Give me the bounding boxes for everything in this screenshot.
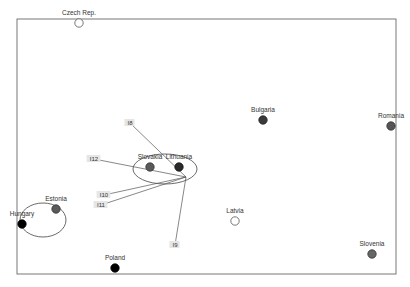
vector-i9: I9 bbox=[169, 177, 186, 248]
vector-label: I9 bbox=[172, 242, 178, 248]
point-label: Lithuania bbox=[166, 153, 193, 160]
data-points: Czech Rep.BulgariaRomaniaSlovakiaLithuan… bbox=[10, 9, 405, 272]
point-romania: Romania bbox=[378, 112, 404, 130]
vector-label: I12 bbox=[90, 156, 99, 162]
point-hungary: Hungary bbox=[10, 210, 35, 228]
vector-line bbox=[101, 177, 186, 205]
point-bulgaria: Bulgaria bbox=[251, 106, 275, 124]
vector-line bbox=[94, 159, 186, 177]
point-poland: Poland bbox=[105, 254, 126, 272]
point-czech-rep: Czech Rep. bbox=[62, 9, 96, 27]
filled-marker-icon bbox=[52, 205, 60, 213]
point-label: Slovenia bbox=[360, 240, 385, 247]
hollow-marker-icon bbox=[75, 19, 83, 27]
filled-marker-icon bbox=[175, 163, 183, 171]
point-label: Czech Rep. bbox=[62, 9, 96, 17]
vector-label: I8 bbox=[127, 120, 133, 126]
point-estonia: Estonia bbox=[45, 195, 67, 213]
point-label: Poland bbox=[105, 254, 126, 261]
point-slovenia: Slovenia bbox=[360, 240, 385, 258]
vector-label: I10 bbox=[100, 192, 109, 198]
vector-label: I11 bbox=[97, 202, 106, 208]
filled-marker-icon bbox=[368, 250, 376, 258]
point-label: Romania bbox=[378, 112, 404, 119]
filled-marker-icon bbox=[259, 116, 267, 124]
biplot-chart: I8I12I10I11I9 Czech Rep.BulgariaRomaniaS… bbox=[0, 0, 410, 287]
point-label: Hungary bbox=[10, 210, 35, 218]
filled-marker-icon bbox=[111, 264, 119, 272]
plot-frame bbox=[17, 19, 396, 274]
point-label: Estonia bbox=[45, 195, 67, 202]
point-label: Latvia bbox=[226, 207, 244, 214]
filled-marker-icon bbox=[146, 163, 154, 171]
vector-line bbox=[175, 177, 186, 245]
point-label: Slovakia bbox=[138, 153, 163, 160]
point-lithuania: Lithuania bbox=[166, 153, 193, 171]
filled-marker-icon bbox=[387, 122, 395, 130]
vector-line bbox=[104, 177, 186, 195]
vector-i10: I10 bbox=[97, 177, 186, 198]
hollow-marker-icon bbox=[231, 217, 239, 225]
filled-marker-icon bbox=[18, 220, 26, 228]
point-label: Bulgaria bbox=[251, 106, 275, 114]
point-latvia: Latvia bbox=[226, 207, 244, 225]
